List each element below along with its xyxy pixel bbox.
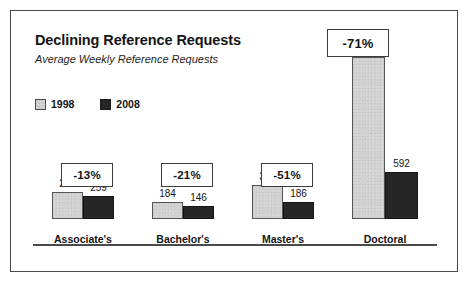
category-label-doctoral: Doctoral — [333, 233, 437, 245]
bar-doctoral-2008 — [385, 172, 418, 219]
bar-associates-2008 — [83, 196, 114, 219]
bar-value-label: 184 — [159, 188, 176, 199]
bar-group-bars: 375 186 — [233, 36, 333, 219]
bar-group-doctoral: 2,031 592 Doctoral — [333, 36, 437, 271]
bar-value-label: 592 — [393, 158, 410, 169]
bar-bachelors-1998 — [152, 202, 183, 219]
bar-group-bars: 2,031 592 — [333, 36, 437, 219]
bar-group-masters: 375 186 Master's — [233, 36, 333, 271]
bar-group-bars: 298 259 — [33, 36, 133, 219]
bar-value-label: 146 — [190, 192, 207, 203]
bar-wrap-1998: 184 — [152, 202, 183, 219]
bar-value-label: 186 — [290, 188, 307, 199]
bar-doctoral-1998 — [352, 57, 385, 219]
bar-wrap-2008: 186 — [283, 202, 314, 219]
bar-masters-2008 — [283, 202, 314, 219]
callout-bachelors: -21% — [161, 163, 213, 187]
bar-bachelors-2008 — [183, 206, 214, 219]
plot-area: 298 259 Associate's 184 — [11, 11, 457, 271]
category-label-bachelors: Bachelor's — [133, 233, 233, 245]
bar-associates-1998 — [52, 192, 83, 219]
callout-doctoral: -71% — [327, 29, 389, 57]
bar-wrap-1998: 2,031 — [352, 57, 385, 219]
bar-masters-1998 — [252, 185, 283, 219]
bar-group-associates: 298 259 Associate's — [33, 36, 133, 271]
chart-figure: Declining Reference Requests Average Wee… — [0, 0, 472, 285]
chart-panel: Declining Reference Requests Average Wee… — [10, 10, 458, 272]
callout-associates: -13% — [61, 163, 113, 187]
bar-wrap-1998: 298 — [52, 192, 83, 219]
callout-masters: -51% — [261, 163, 313, 187]
bar-group-bars: 184 146 — [133, 36, 233, 219]
bar-wrap-1998: 375 — [252, 185, 283, 219]
bar-wrap-2008: 146 — [183, 206, 214, 219]
category-label-associates: Associate's — [33, 233, 133, 245]
category-label-masters: Master's — [233, 233, 333, 245]
bar-group-bachelors: 184 146 Bachelor's — [133, 36, 233, 271]
bar-wrap-2008: 592 — [385, 172, 418, 219]
bar-wrap-2008: 259 — [83, 196, 114, 219]
